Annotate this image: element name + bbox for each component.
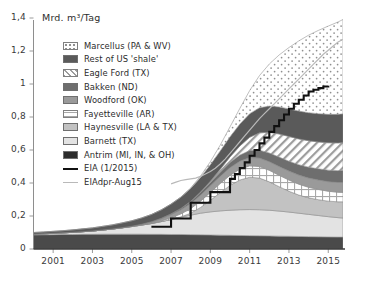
- legend-swatch-bakken: [63, 83, 78, 91]
- legend-item-antrim[interactable]: Antrim (MI, IN, & OH): [63, 148, 203, 162]
- x-tick-label: 2013: [267, 256, 311, 266]
- legend-swatch-marcellus: [63, 42, 78, 50]
- legend-swatch-eia: [63, 164, 78, 172]
- x-tick-label: 2011: [228, 256, 272, 266]
- chart-legend: Marcellus (PA & WV)Rest of US 'shale'Eag…: [63, 39, 203, 189]
- legend-swatch-eagleford: [63, 69, 78, 77]
- legend-item-marcellus[interactable]: Marcellus (PA & WV): [63, 39, 203, 53]
- y-tick-label: 1,2: [0, 45, 26, 55]
- legend-swatch-barnett: [63, 137, 78, 145]
- legend-item-eia[interactable]: EIA (1/2015): [63, 161, 203, 175]
- x-tick-label: 2007: [149, 256, 193, 266]
- y-tick-label: 0,8: [0, 111, 26, 121]
- x-tick-label: 2001: [31, 256, 75, 266]
- y-tick-label: 1: [0, 78, 26, 88]
- legend-label-bakken: Bakken (ND): [84, 82, 138, 92]
- legend-label-eia: EIA (1/2015): [84, 163, 137, 173]
- y-tick-label: 0,6: [0, 144, 26, 154]
- legend-swatch-fayetteville: [63, 110, 78, 118]
- legend-item-haynesville[interactable]: Haynesville (LA & TX): [63, 121, 203, 135]
- legend-item-fayetteville[interactable]: Fayetteville (AR): [63, 107, 203, 121]
- x-tick-label: 2005: [110, 256, 154, 266]
- legend-item-bakken[interactable]: Bakken (ND): [63, 80, 203, 94]
- legend-swatch-antrim: [63, 151, 78, 159]
- x-tick-label: 2015: [306, 256, 350, 266]
- legend-label-woodford: Woodford (OK): [84, 95, 147, 105]
- legend-label-fayetteville: Fayetteville (AR): [84, 109, 155, 119]
- legend-label-rest: Rest of US 'shale': [84, 54, 158, 64]
- y-tick-label: 1,4: [0, 12, 26, 22]
- legend-label-antrim: Antrim (MI, IN, & OH): [84, 150, 175, 160]
- legend-label-marcellus: Marcellus (PA & WV): [84, 41, 171, 51]
- legend-item-barnett[interactable]: Barnett (TX): [63, 134, 203, 148]
- legend-item-woodford[interactable]: Woodford (OK): [63, 93, 203, 107]
- x-tick-label: 2003: [70, 256, 114, 266]
- legend-label-eiadpr: EIAdpr-Aug15: [84, 177, 142, 187]
- y-tick-label: 0: [0, 243, 26, 253]
- legend-label-barnett: Barnett (TX): [84, 136, 136, 146]
- legend-label-haynesville: Haynesville (LA & TX): [84, 122, 177, 132]
- legend-item-rest[interactable]: Rest of US 'shale': [63, 53, 203, 67]
- legend-swatch-rest: [63, 55, 78, 63]
- legend-label-eagleford: Eagle Ford (TX): [84, 68, 150, 78]
- y-tick-label: 0,4: [0, 177, 26, 187]
- legend-item-eagleford[interactable]: Eagle Ford (TX): [63, 66, 203, 80]
- legend-swatch-haynesville: [63, 123, 78, 131]
- x-tick-label: 2009: [188, 256, 232, 266]
- chart-container: Mrd. m³/Tag 1,41,210,80,60,40,20 2001: [0, 0, 376, 281]
- legend-item-eiadpr[interactable]: EIAdpr-Aug15: [63, 175, 203, 189]
- y-tick-label: 0,2: [0, 210, 26, 220]
- legend-swatch-eiadpr: [63, 178, 78, 186]
- legend-swatch-woodford: [63, 96, 78, 104]
